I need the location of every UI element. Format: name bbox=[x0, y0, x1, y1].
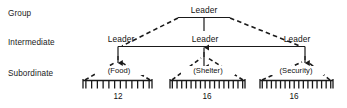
count-label-food: 12 bbox=[96, 92, 140, 101]
tier-label-group: Group bbox=[8, 9, 31, 18]
intermediate-tier-bar bbox=[118, 47, 305, 61]
node-group-leader: Leader bbox=[179, 5, 229, 15]
group-leader-connector bbox=[178, 18, 230, 32]
comb-food bbox=[83, 79, 152, 89]
tier-label-subordinate: Subordinate bbox=[8, 69, 53, 78]
unit-label-security: (Security) bbox=[268, 66, 324, 75]
org-hierarchy-diagram: Group Intermediate Subordinate Leader Le… bbox=[0, 0, 347, 108]
tier-label-intermediate: Intermediate bbox=[8, 38, 55, 47]
comb-shelter bbox=[170, 79, 245, 89]
unit-label-food: (Food) bbox=[95, 66, 143, 75]
unit-label-shelter: (Shelter) bbox=[181, 66, 235, 75]
node-intermediate-leader-middle: Leader bbox=[180, 34, 230, 44]
comb-security bbox=[260, 79, 333, 89]
count-label-security: 16 bbox=[272, 92, 316, 101]
node-intermediate-leader-left: Leader bbox=[96, 34, 146, 44]
count-label-shelter: 16 bbox=[185, 92, 229, 101]
node-intermediate-leader-right: Leader bbox=[272, 34, 322, 44]
